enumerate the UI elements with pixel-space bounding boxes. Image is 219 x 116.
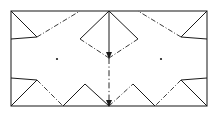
fold-bottom-center-right	[109, 84, 133, 106]
diamond-edge-lower-right	[109, 39, 138, 58]
crease-tr-corner-down	[181, 11, 207, 37]
diamond-edge-upper-right	[109, 11, 138, 39]
crease-br-corner-up	[181, 80, 207, 106]
crease-left-lower-in	[11, 78, 37, 80]
crease-tl-corner-down	[11, 11, 37, 37]
diamond-edge-lower-left	[80, 39, 109, 58]
crease-pattern-figure	[0, 0, 219, 116]
crease-bottom-left-peak	[63, 84, 85, 106]
drawing-canvas	[0, 0, 219, 116]
crease-bl-corner-up	[11, 80, 37, 106]
crease-bottom-right-peak	[133, 84, 155, 106]
crease-right-upper-in	[181, 37, 207, 39]
diamond-edge-upper-left	[80, 11, 109, 39]
right-center-dot	[160, 58, 162, 60]
crease-right-lower-in	[181, 78, 207, 80]
fold-tr-to-top-center	[138, 11, 181, 37]
fold-br-to-bottom	[155, 80, 181, 106]
left-center-dot	[56, 58, 58, 60]
crease-left-upper-in	[11, 37, 37, 39]
diamond-bottom-arrow-icon	[106, 52, 112, 59]
fold-bl-to-bottom	[37, 80, 63, 106]
fold-tl-to-top-center	[37, 11, 80, 37]
crease-bottom-center-left	[85, 84, 109, 106]
